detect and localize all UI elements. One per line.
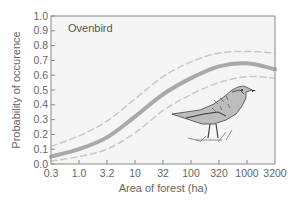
x-tick-label: 3200	[263, 167, 287, 179]
x-tick-label: 1.0	[72, 167, 87, 179]
y-tick-label: 1.0	[33, 10, 48, 22]
y-tick-label: 0.7	[33, 54, 48, 66]
x-tick-label: 0.3	[44, 167, 59, 179]
y-axis-title: Probability of occurence	[10, 31, 22, 148]
species-label: Ovenbird	[68, 22, 113, 34]
x-tick-label: 1000	[235, 167, 259, 179]
x-tick-label: 3.2	[100, 167, 115, 179]
x-tick-label: 320	[210, 167, 228, 179]
y-tick-label: 0.4	[33, 98, 48, 110]
y-tick-label: 0.8	[33, 39, 48, 51]
y-tick-label: 0.3	[33, 113, 48, 125]
y-tick-label: 0.6	[33, 69, 48, 81]
chart: 0.00.10.20.30.40.50.60.70.80.91.0 0.31.0…	[0, 0, 302, 205]
x-axis-title: Area of forest (ha)	[119, 182, 208, 194]
x-tick-label: 100	[182, 167, 200, 179]
y-tick-label: 0.5	[33, 84, 48, 96]
x-tick-label: 10	[129, 167, 141, 179]
x-tick-label: 32	[157, 167, 169, 179]
y-tick-label: 0.1	[33, 143, 48, 155]
y-tick-label: 0.9	[33, 24, 48, 36]
y-tick-label: 0.2	[33, 128, 48, 140]
